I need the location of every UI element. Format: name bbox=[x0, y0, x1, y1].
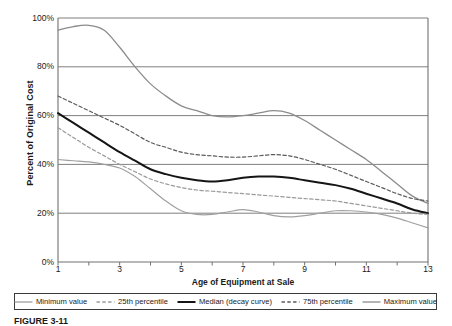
legend-label: Maximum value bbox=[384, 297, 437, 306]
legend-line-icon bbox=[362, 298, 381, 306]
x-tick-label: 13 bbox=[416, 264, 440, 274]
x-axis-tick-labels: 135791113 bbox=[58, 264, 428, 278]
series-line bbox=[58, 113, 428, 213]
x-tick-label: 11 bbox=[354, 264, 378, 274]
legend-line-icon bbox=[14, 298, 33, 306]
series-line bbox=[58, 128, 428, 215]
legend-line-icon bbox=[177, 298, 196, 306]
legend-item: Maximum value bbox=[362, 297, 437, 306]
y-tick-label: 100% bbox=[10, 13, 54, 23]
legend-line-icon bbox=[281, 298, 300, 306]
legend-item: 75th percentile bbox=[281, 297, 353, 306]
legend-label: 75th percentile bbox=[303, 297, 353, 306]
data-series-group bbox=[58, 25, 428, 228]
legend-item: Median (decay curve) bbox=[177, 297, 272, 306]
legend-label: Minimum value bbox=[36, 297, 87, 306]
figure-caption: FIGURE 3-11 bbox=[14, 316, 68, 326]
legend-item: 25th percentile bbox=[96, 297, 168, 306]
axis-lines bbox=[58, 18, 428, 262]
legend-label: Median (decay curve) bbox=[199, 297, 272, 306]
y-tick-label: 20% bbox=[10, 208, 54, 218]
legend-label: 25th percentile bbox=[118, 297, 168, 306]
chart-canvas bbox=[58, 18, 428, 262]
x-tick-label: 3 bbox=[108, 264, 132, 274]
x-tick-label: 7 bbox=[231, 264, 255, 274]
legend-line-icon bbox=[96, 298, 115, 306]
series-line bbox=[58, 25, 428, 203]
x-tick-label: 9 bbox=[293, 264, 317, 274]
y-tick-label: 60% bbox=[10, 110, 54, 120]
figure-container: Percent of Original Cost 0%20%40%60%80%1… bbox=[0, 0, 452, 326]
x-tick-label: 1 bbox=[46, 264, 70, 274]
y-axis-tick-labels: 0%20%40%60%80%100% bbox=[6, 18, 54, 262]
x-tick-label: 5 bbox=[169, 264, 193, 274]
y-tick-label: 40% bbox=[10, 159, 54, 169]
legend-item: Minimum value bbox=[14, 297, 87, 306]
x-axis-title: Age of Equipment at Sale bbox=[58, 277, 428, 287]
chart-legend: Minimum value25th percentileMedian (deca… bbox=[14, 293, 437, 310]
y-tick-label: 80% bbox=[10, 61, 54, 71]
plot-area bbox=[58, 18, 428, 262]
